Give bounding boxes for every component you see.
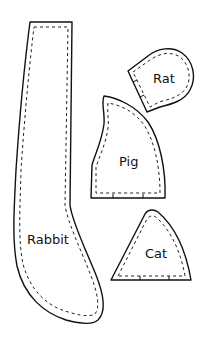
rabbit-label: Rabbit	[27, 232, 69, 247]
rat-label: Rat	[153, 71, 175, 86]
rabbit-seam	[20, 27, 98, 316]
cat-outline	[111, 210, 191, 280]
rat-notch	[133, 80, 137, 82]
cat-piece: Cat	[111, 210, 191, 280]
rat-notch	[140, 95, 144, 97]
pattern-diagram: Rabbit Rat Pig Cat	[0, 0, 210, 341]
pig-piece: Pig	[91, 96, 165, 198]
cat-label: Cat	[145, 246, 167, 261]
pig-outline	[91, 96, 165, 198]
pig-label: Pig	[119, 154, 138, 169]
rabbit-piece: Rabbit	[14, 22, 103, 323]
rat-piece: Rat	[128, 49, 193, 112]
rabbit-outline	[14, 22, 103, 323]
pig-seam	[96, 103, 160, 193]
